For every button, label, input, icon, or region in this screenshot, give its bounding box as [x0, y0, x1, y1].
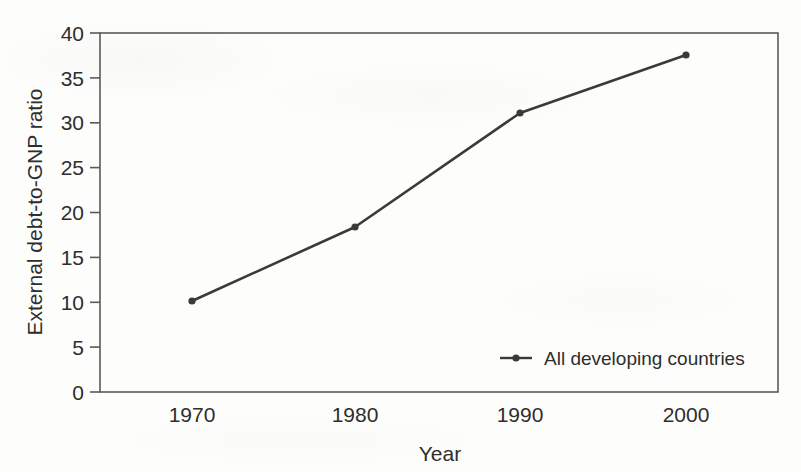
y-tick-label-20: 20 — [61, 201, 84, 224]
y-tick-label-0: 0 — [72, 381, 84, 404]
y-axis-tick-labels: 0 5 10 15 20 25 30 35 40 — [61, 22, 84, 404]
x-tick-label-2000: 2000 — [663, 403, 710, 426]
y-axis-title: External debt-to-GNP ratio — [23, 88, 46, 335]
y-tick-label-5: 5 — [72, 336, 84, 359]
data-point-1990 — [516, 109, 523, 116]
data-point-1970 — [188, 297, 195, 304]
x-tick-label-1990: 1990 — [497, 403, 544, 426]
y-tick-label-25: 25 — [61, 156, 84, 179]
x-axis-title: Year — [419, 442, 461, 465]
y-tick-label-35: 35 — [61, 67, 84, 90]
data-point-1980 — [351, 223, 358, 230]
legend-label-all-developing-countries: All developing countries — [544, 348, 745, 369]
series-all-developing-countries — [188, 51, 689, 304]
data-point-2000 — [682, 51, 689, 58]
y-tick-label-40: 40 — [61, 22, 84, 45]
y-tick-label-30: 30 — [61, 111, 84, 134]
y-tick-label-15: 15 — [61, 246, 84, 269]
x-tick-label-1980: 1980 — [332, 403, 379, 426]
plot-border — [100, 33, 778, 392]
plot-frame — [100, 33, 778, 392]
legend-marker-dot-icon — [512, 354, 519, 361]
line-chart: 0 5 10 15 20 25 30 35 40 1970 1980 1990 … — [0, 0, 801, 472]
chart-legend: All developing countries — [500, 348, 745, 369]
y-tick-label-10: 10 — [61, 291, 84, 314]
chart-page: 0 5 10 15 20 25 30 35 40 1970 1980 1990 … — [0, 0, 801, 472]
x-tick-label-1970: 1970 — [169, 403, 216, 426]
x-axis-tick-labels: 1970 1980 1990 2000 — [169, 403, 710, 426]
series-line — [192, 55, 686, 301]
y-axis-ticks — [90, 33, 100, 392]
